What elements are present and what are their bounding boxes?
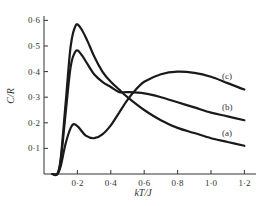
y-tick-label: 0·4	[28, 67, 40, 77]
x-ticks: 0·20·40·60·81·01·2	[71, 170, 250, 188]
y-axis-label: C/R	[5, 88, 16, 104]
x-tick-label: 1·0	[205, 178, 217, 188]
series-label-c: (c)	[222, 71, 232, 81]
y-ticks: 0·10·20·30·40·50·6	[28, 15, 48, 153]
series-label-b: (b)	[222, 102, 233, 112]
specific-heat-chart: 0·10·20·30·40·50·6 0·20·40·60·81·01·2 kT…	[0, 0, 267, 206]
series-label-a: (a)	[222, 128, 232, 138]
y-tick-label: 0·5	[28, 41, 40, 51]
x-axis-label: kT/J	[134, 187, 152, 198]
y-tick-label: 0·3	[28, 92, 40, 102]
x-tick-label: 0·4	[105, 178, 117, 188]
y-tick-label: 0·1	[28, 143, 40, 153]
curve-a	[52, 24, 244, 175]
curves	[52, 24, 244, 175]
y-tick-label: 0·6	[28, 15, 40, 25]
curve-c	[52, 72, 244, 175]
y-tick-label: 0·2	[28, 118, 40, 128]
x-tick-label: 1·2	[238, 178, 250, 188]
x-tick-label: 0·8	[172, 178, 184, 188]
x-tick-label: 0·2	[71, 178, 83, 188]
